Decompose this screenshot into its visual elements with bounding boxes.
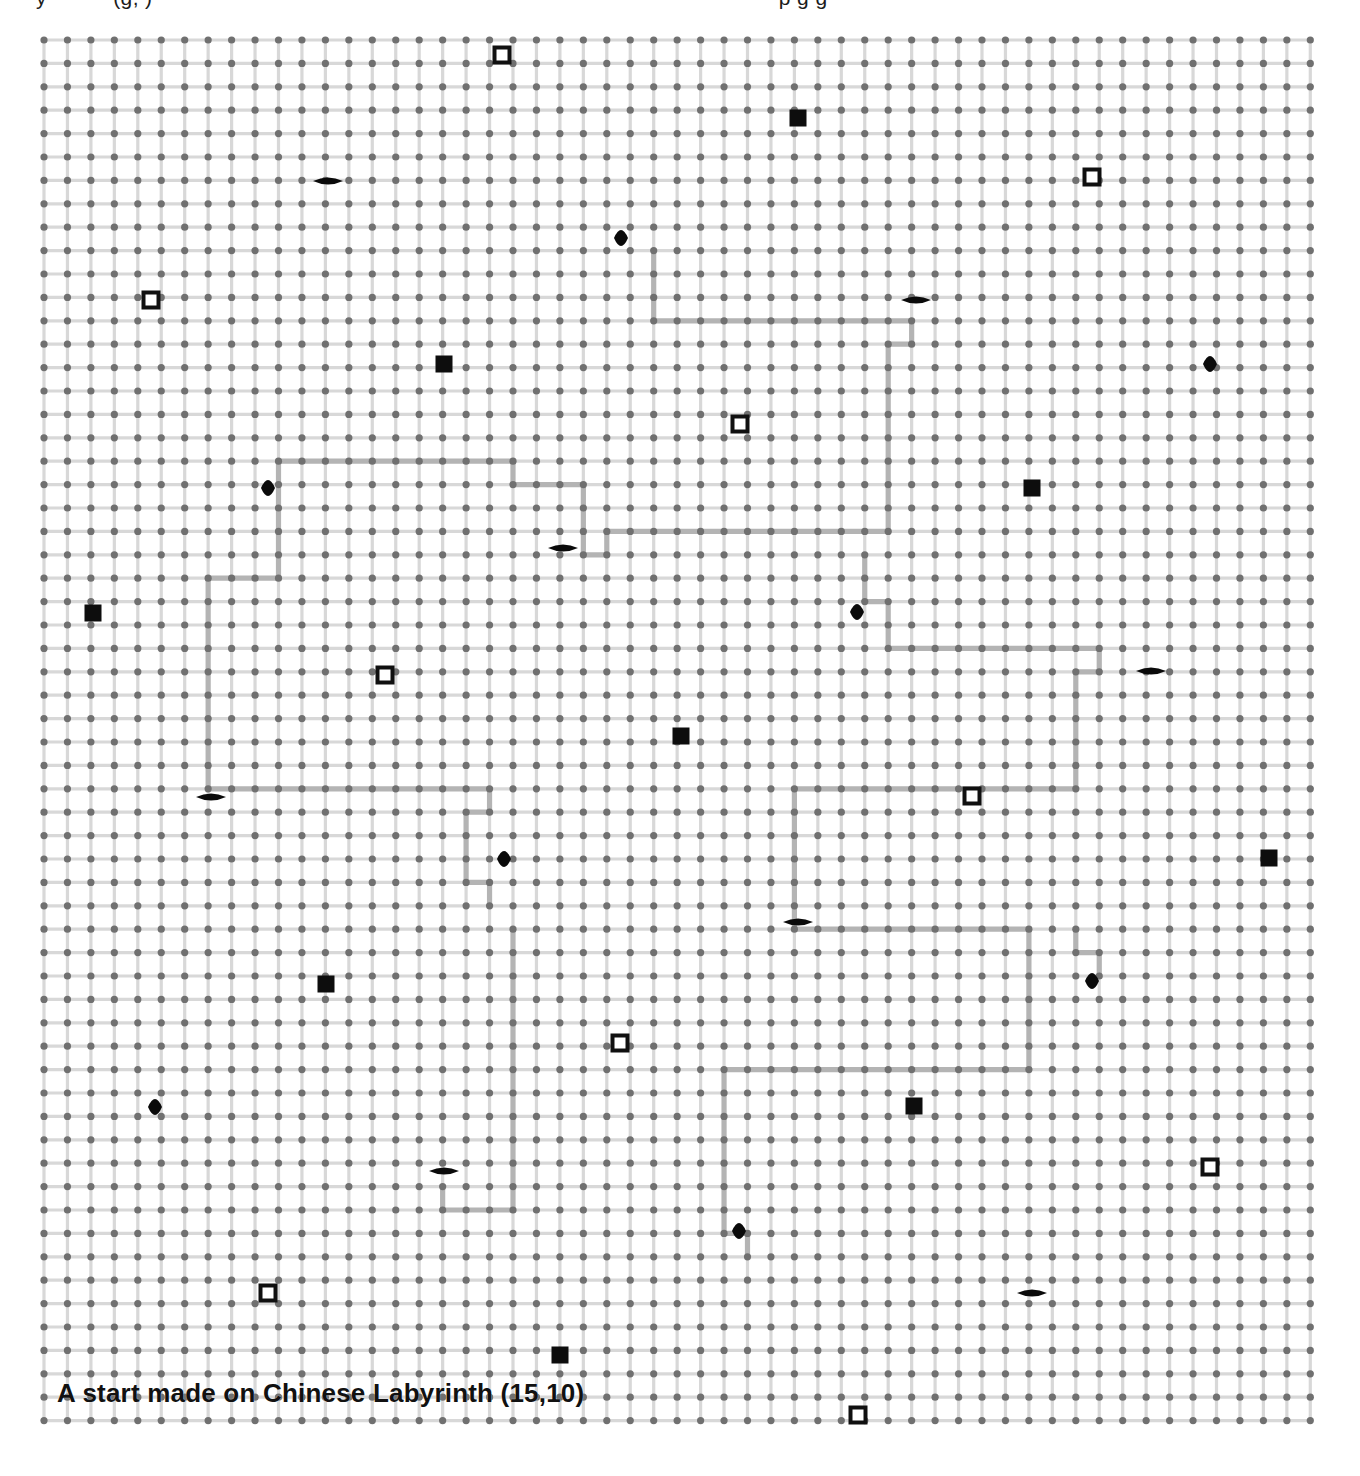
grid-dot[interactable] bbox=[416, 270, 423, 277]
grid-dot[interactable] bbox=[134, 270, 141, 277]
grid-dot[interactable] bbox=[580, 1160, 587, 1167]
grid-dot[interactable] bbox=[1025, 645, 1032, 652]
grid-dot[interactable] bbox=[650, 1253, 657, 1260]
grid-dot[interactable] bbox=[791, 387, 798, 394]
grid-dot[interactable] bbox=[955, 738, 962, 745]
grid-dot[interactable] bbox=[1283, 294, 1290, 301]
grid-dot[interactable] bbox=[509, 364, 516, 371]
grid-dot[interactable] bbox=[87, 809, 94, 816]
grid-dot[interactable] bbox=[486, 1089, 493, 1096]
grid-dot[interactable] bbox=[158, 972, 165, 979]
grid-dot[interactable] bbox=[322, 341, 329, 348]
grid-dot[interactable] bbox=[509, 130, 516, 137]
grid-dot[interactable] bbox=[369, 972, 376, 979]
grid-dot[interactable] bbox=[322, 130, 329, 137]
grid-dot[interactable] bbox=[861, 832, 868, 839]
grid-dot[interactable] bbox=[650, 83, 657, 90]
grid-dot[interactable] bbox=[111, 107, 118, 114]
grid-dot[interactable] bbox=[1002, 1089, 1009, 1096]
grid-dot[interactable] bbox=[134, 692, 141, 699]
grid-dot[interactable] bbox=[767, 949, 774, 956]
grid-dot[interactable] bbox=[345, 60, 352, 67]
grid-dot[interactable] bbox=[64, 107, 71, 114]
grid-dot[interactable] bbox=[744, 1089, 751, 1096]
grid-dot[interactable] bbox=[1213, 1323, 1220, 1330]
grid-dot[interactable] bbox=[861, 1066, 868, 1073]
grid-dot[interactable] bbox=[1072, 809, 1079, 816]
grid-dot[interactable] bbox=[1025, 996, 1032, 1003]
grid-dot[interactable] bbox=[1025, 879, 1032, 886]
grid-dot[interactable] bbox=[1096, 1230, 1103, 1237]
grid-dot[interactable] bbox=[720, 1347, 727, 1354]
grid-dot[interactable] bbox=[181, 317, 188, 324]
grid-dot[interactable] bbox=[1283, 738, 1290, 745]
grid-dot[interactable] bbox=[767, 200, 774, 207]
grid-dot[interactable] bbox=[720, 855, 727, 862]
grid-dot[interactable] bbox=[791, 36, 798, 43]
grid-dot[interactable] bbox=[1166, 364, 1173, 371]
grid-dot[interactable] bbox=[744, 785, 751, 792]
grid-dot[interactable] bbox=[955, 528, 962, 535]
grid-dot[interactable] bbox=[603, 1183, 610, 1190]
grid-dot[interactable] bbox=[674, 832, 681, 839]
grid-dot[interactable] bbox=[369, 855, 376, 862]
grid-dot[interactable] bbox=[275, 1089, 282, 1096]
grid-dot[interactable] bbox=[814, 1347, 821, 1354]
grid-dot[interactable] bbox=[720, 1019, 727, 1026]
grid-dot[interactable] bbox=[580, 1230, 587, 1237]
grid-dot[interactable] bbox=[838, 832, 845, 839]
grid-dot[interactable] bbox=[87, 411, 94, 418]
grid-dot[interactable] bbox=[697, 1230, 704, 1237]
grid-dot[interactable] bbox=[1096, 809, 1103, 816]
grid-dot[interactable] bbox=[1307, 926, 1314, 933]
grid-dot[interactable] bbox=[1002, 528, 1009, 535]
grid-dot[interactable] bbox=[791, 1019, 798, 1026]
grid-dot[interactable] bbox=[767, 1206, 774, 1213]
grid-dot[interactable] bbox=[416, 1323, 423, 1330]
grid-dot[interactable] bbox=[1049, 996, 1056, 1003]
grid-dot[interactable] bbox=[392, 1323, 399, 1330]
grid-dot[interactable] bbox=[298, 1253, 305, 1260]
grid-dot[interactable] bbox=[978, 621, 985, 628]
grid-dot[interactable] bbox=[87, 270, 94, 277]
grid-dot[interactable] bbox=[744, 1417, 751, 1424]
grid-dot[interactable] bbox=[1049, 130, 1056, 137]
grid-dot[interactable] bbox=[1072, 294, 1079, 301]
grid-dot[interactable] bbox=[228, 762, 235, 769]
grid-dot[interactable] bbox=[861, 949, 868, 956]
grid-dot[interactable] bbox=[838, 1277, 845, 1284]
grid-dot[interactable] bbox=[1002, 434, 1009, 441]
grid-dot[interactable] bbox=[1283, 949, 1290, 956]
grid-dot[interactable] bbox=[64, 785, 71, 792]
grid-dot[interactable] bbox=[251, 1066, 258, 1073]
grid-dot[interactable] bbox=[603, 1113, 610, 1120]
grid-dot[interactable] bbox=[978, 1253, 985, 1260]
grid-dot[interactable] bbox=[744, 575, 751, 582]
grid-dot[interactable] bbox=[861, 1253, 868, 1260]
grid-dot[interactable] bbox=[650, 130, 657, 137]
grid-dot[interactable] bbox=[1049, 411, 1056, 418]
grid-dot[interactable] bbox=[345, 36, 352, 43]
grid-dot[interactable] bbox=[767, 1253, 774, 1260]
grid-dot[interactable] bbox=[932, 996, 939, 1003]
grid-dot[interactable] bbox=[697, 1113, 704, 1120]
grid-dot[interactable] bbox=[556, 434, 563, 441]
grid-dot[interactable] bbox=[932, 458, 939, 465]
grid-dot[interactable] bbox=[1213, 387, 1220, 394]
grid-dot[interactable] bbox=[861, 645, 868, 652]
grid-dot[interactable] bbox=[908, 902, 915, 909]
grid-dot[interactable] bbox=[509, 1019, 516, 1026]
grid-dot[interactable] bbox=[767, 738, 774, 745]
grid-dot[interactable] bbox=[1307, 1230, 1314, 1237]
grid-dot[interactable] bbox=[1049, 1300, 1056, 1307]
grid-dot[interactable] bbox=[416, 83, 423, 90]
grid-dot[interactable] bbox=[791, 598, 798, 605]
grid-dot[interactable] bbox=[955, 1206, 962, 1213]
grid-dot[interactable] bbox=[1096, 832, 1103, 839]
grid-dot[interactable] bbox=[205, 645, 212, 652]
grid-dot[interactable] bbox=[439, 645, 446, 652]
grid-dot[interactable] bbox=[1213, 224, 1220, 231]
grid-dot[interactable] bbox=[1307, 762, 1314, 769]
grid-dot[interactable] bbox=[1002, 1019, 1009, 1026]
grid-dot[interactable] bbox=[1283, 107, 1290, 114]
